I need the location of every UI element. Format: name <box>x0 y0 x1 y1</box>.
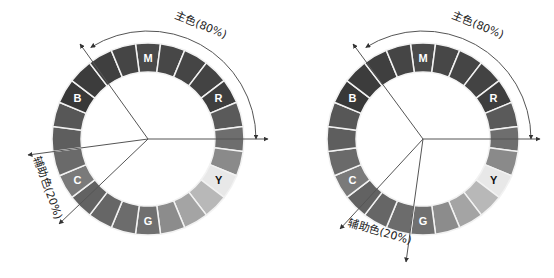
wheel-label-m: M <box>418 52 427 64</box>
color-scheme-diagrams: MRYGCB 主色(80%) 辅助色(20%) MRYGCB 主色(80%) 辅… <box>0 0 554 278</box>
wheel-label-b: B <box>348 92 356 104</box>
wheel-label-c: C <box>73 174 81 186</box>
wheel-label-g: G <box>419 215 428 227</box>
wheel-label-c: C <box>348 174 356 186</box>
boundary-line-left <box>28 139 148 155</box>
wheel-label-r: R <box>490 92 498 104</box>
wheel-label-b: B <box>73 92 81 104</box>
wheel-label-m: M <box>143 52 152 64</box>
wheel-label-g: G <box>144 215 153 227</box>
wheel-label-y: Y <box>490 174 498 186</box>
wheel-label-y: Y <box>215 174 223 186</box>
wheel-label-r: R <box>215 92 223 104</box>
